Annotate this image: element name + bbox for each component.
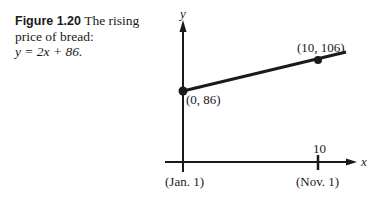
y-axis-arrow-icon — [180, 20, 187, 32]
x-axis-arrow-icon — [346, 159, 357, 166]
x-tick-jan-label: (Jan. 1) — [165, 174, 204, 189]
x-tick-10-label: 10 — [313, 141, 326, 156]
data-line — [183, 52, 346, 91]
line-chart: y x 10 (Jan. 1) (Nov. 1) (0, 86) (10, 10… — [0, 0, 383, 205]
x-tick-nov-label: (Nov. 1) — [296, 174, 339, 189]
y-axis-label: y — [178, 6, 186, 21]
data-point-b — [314, 56, 322, 64]
data-point-a-label: (0, 86) — [186, 92, 221, 107]
data-point-b-label: (10, 106) — [297, 40, 345, 55]
x-axis-label: x — [360, 154, 367, 169]
